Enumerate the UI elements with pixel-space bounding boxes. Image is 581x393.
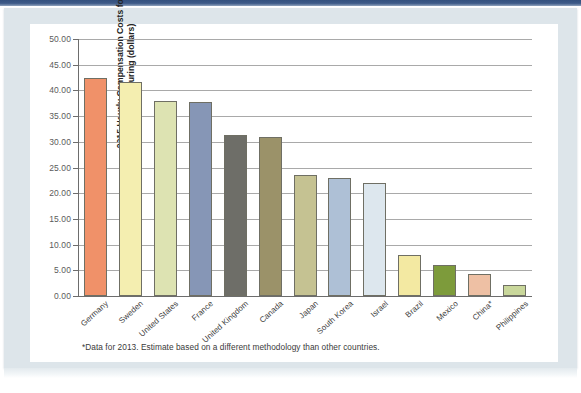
y-axis-tick-label: 25.00 bbox=[31, 163, 71, 173]
y-axis-tick-mark bbox=[73, 245, 78, 246]
bar-canada[interactable] bbox=[259, 137, 282, 296]
x-axis-label-brazil: Brazil bbox=[403, 299, 424, 319]
x-axis-label-sweden: Sweden bbox=[117, 299, 145, 325]
bar-south-korea[interactable] bbox=[328, 178, 351, 296]
x-axis-label-japan: Japan bbox=[297, 299, 320, 321]
bar-japan[interactable] bbox=[294, 175, 317, 296]
y-axis-tick-labels: 50.0045.0040.0035.0030.0025.0020.0015.00… bbox=[30, 39, 71, 296]
x-axis-label-france: France bbox=[190, 299, 215, 323]
y-axis-tick-label: 5.00 bbox=[31, 265, 71, 275]
bar-philippines[interactable] bbox=[503, 285, 526, 296]
y-axis-tick-mark bbox=[73, 270, 78, 271]
y-axis-tick-label: 15.00 bbox=[31, 214, 71, 224]
x-axis-label-israel: Israel bbox=[369, 299, 390, 319]
bar-china[interactable] bbox=[468, 274, 491, 296]
chart-footnote: *Data for 2013. Estimate based on a diff… bbox=[82, 342, 380, 352]
y-axis-tick-label: 30.00 bbox=[31, 137, 71, 147]
x-axis-label-canada: Canada bbox=[258, 299, 285, 325]
y-axis-tick-label: 35.00 bbox=[31, 111, 71, 121]
y-axis-tick-mark bbox=[73, 296, 78, 297]
bar-sweden[interactable] bbox=[119, 82, 142, 296]
y-axis-tick-label: 10.00 bbox=[31, 240, 71, 250]
figure-page: 2015 Hourly Compensation Costs for Manuf… bbox=[0, 0, 581, 393]
bar-united-states[interactable] bbox=[154, 101, 177, 296]
x-axis-label-mexico: Mexico bbox=[434, 299, 459, 323]
bar-mexico[interactable] bbox=[433, 265, 456, 296]
y-axis-tick-label: 45.00 bbox=[31, 60, 71, 70]
y-axis-tick-mark bbox=[73, 142, 78, 143]
bar-chart: 2015 Hourly Compensation Costs for Manuf… bbox=[30, 24, 558, 362]
y-axis-tick-label: 20.00 bbox=[31, 188, 71, 198]
top-accent-bar bbox=[0, 0, 581, 6]
y-axis-tick-label: 0.00 bbox=[31, 291, 71, 301]
bar-israel[interactable] bbox=[363, 183, 386, 296]
y-axis-tick-mark bbox=[73, 193, 78, 194]
figure-panel: 2015 Hourly Compensation Costs for Manuf… bbox=[4, 8, 577, 368]
bar-france[interactable] bbox=[189, 102, 212, 296]
bar-united-kingdom[interactable] bbox=[224, 135, 247, 296]
y-axis-tick-mark bbox=[73, 219, 78, 220]
bar-brazil[interactable] bbox=[398, 255, 421, 296]
x-axis-label-china: China* bbox=[470, 299, 494, 322]
chart-card: 2015 Hourly Compensation Costs for Manuf… bbox=[30, 24, 558, 362]
y-axis-tick-mark bbox=[73, 65, 78, 66]
y-axis-tick-mark bbox=[73, 116, 78, 117]
y-axis-tick-label: 50.00 bbox=[31, 34, 71, 44]
bar-series bbox=[78, 39, 532, 296]
y-axis-tick-mark bbox=[73, 39, 78, 40]
x-axis-label-germany: Germany bbox=[79, 299, 110, 328]
y-axis-tick-mark bbox=[73, 90, 78, 91]
bar-germany[interactable] bbox=[84, 78, 107, 296]
y-axis-tick-label: 40.00 bbox=[31, 85, 71, 95]
x-axis-label-south-korea: South Korea bbox=[315, 299, 355, 336]
y-axis-tick-mark bbox=[73, 168, 78, 169]
x-axis-label-philippines: Philippines bbox=[494, 299, 530, 332]
